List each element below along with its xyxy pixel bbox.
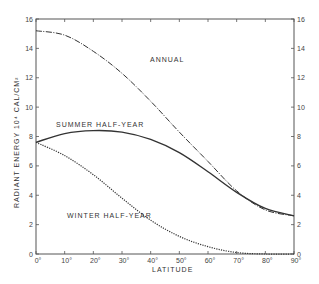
y-tick-right: 16 — [297, 16, 305, 23]
x-tick: 70° — [233, 257, 244, 264]
x-axis-label: LATITUDE — [152, 266, 193, 273]
y-tick-right: 12 — [297, 74, 305, 81]
y-tick-right: 14 — [297, 45, 305, 52]
x-tick: 80° — [262, 257, 273, 264]
x-tick: 0° — [35, 257, 42, 264]
summer-label: SUMMER HALF-YEAR — [56, 121, 144, 128]
x-tick: 90° — [291, 257, 302, 264]
y-tick-left: 12 — [25, 74, 33, 81]
y-tick-left: 14 — [25, 45, 33, 52]
x-tick: 50° — [176, 257, 187, 264]
x-tick: 60° — [205, 257, 216, 264]
summer-half-year-curve — [36, 131, 294, 216]
x-tick: 30° — [119, 257, 130, 264]
y-tick-right: 10 — [297, 104, 305, 111]
y-tick-right: 2 — [297, 221, 301, 228]
y-tick-left: 6 — [29, 162, 33, 169]
annual-label: ANNUAL — [150, 56, 184, 63]
y-tick-right: 8 — [297, 133, 301, 140]
x-tick: 10° — [61, 257, 72, 264]
axis-ticks: 002244668810101212141416160°10°20°30°40°… — [25, 16, 305, 265]
y-tick-left: 2 — [29, 221, 33, 228]
curves — [36, 31, 294, 254]
x-tick: 20° — [90, 257, 101, 264]
y-tick-left: 4 — [29, 192, 33, 199]
y-tick-left: 0 — [29, 251, 33, 258]
radiant-energy-chart: 002244668810101212141416160°10°20°30°40°… — [0, 0, 319, 284]
y-tick-left: 8 — [29, 133, 33, 140]
y-tick-left: 16 — [25, 16, 33, 23]
y-axis-label: RADIANT ENERGY 10⁴ CAL/CM² — [13, 77, 20, 208]
y-tick-right: 4 — [297, 192, 301, 199]
winter-half-year-curve — [36, 142, 294, 254]
winter-label: WINTER HALF-YEAR — [67, 212, 152, 219]
y-tick-right: 6 — [297, 162, 301, 169]
y-tick-left: 10 — [25, 104, 33, 111]
x-tick: 40° — [147, 257, 158, 264]
